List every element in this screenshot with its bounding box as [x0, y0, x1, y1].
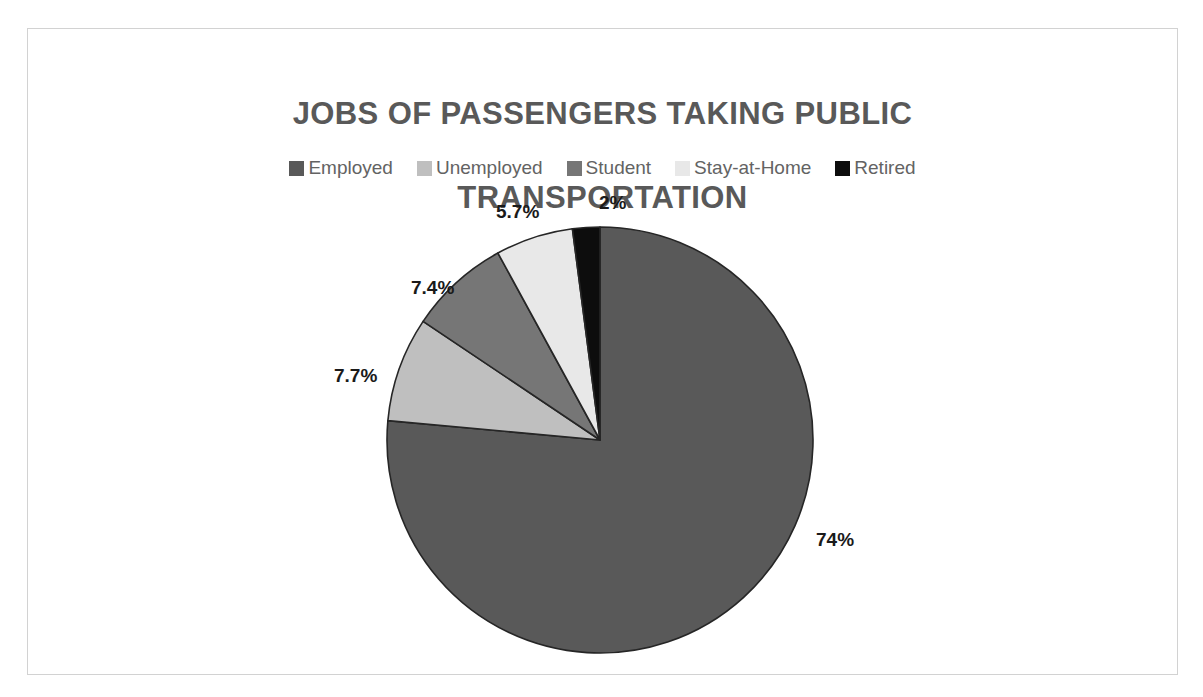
data-label-student: 7.4%: [411, 277, 454, 299]
data-label-unemployed: 7.7%: [334, 365, 377, 387]
chart-frame: JOBS OF PASSENGERS TAKING PUBLIC TRANSPO…: [27, 28, 1178, 675]
chart-page: JOBS OF PASSENGERS TAKING PUBLIC TRANSPO…: [0, 0, 1203, 697]
pie-plot-area: 74% 7.7% 7.4% 5.7% 2%: [28, 29, 1179, 676]
data-label-retired: 2%: [599, 192, 626, 214]
pie-chart-svg: [28, 29, 1179, 676]
data-label-stay-at-home: 5.7%: [496, 201, 539, 223]
data-label-employed: 74%: [816, 529, 854, 551]
